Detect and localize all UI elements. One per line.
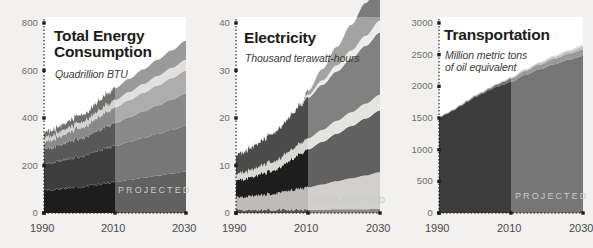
page-title: Total Energy Consumption (54, 28, 152, 61)
x-axis-tick-label: 1990 (30, 223, 54, 234)
chart-subtitle: Quadrillion BTU (55, 69, 128, 81)
y-axis-tick-label: 200 (22, 161, 38, 171)
y-axis-tick-label: 40 (219, 18, 230, 28)
y-axis-tick-label: 0 (33, 208, 38, 218)
x-axis-tick-label: 1990 (222, 223, 246, 234)
chart-panel-electricity: Electricity Thousand terawatt-hours PROJ… (196, 0, 392, 248)
y-axis-tick-label: 500 (417, 176, 433, 186)
y-axis-tick-label: 1000 (411, 145, 433, 155)
x-axis-tick-label: 2030 (366, 223, 390, 234)
chart-panel-transportation: Transportation Million metric tons of oi… (393, 0, 593, 248)
page-title: Electricity (244, 30, 316, 46)
projected-annotation: PROJECTED (515, 192, 588, 201)
chart-subtitle: Million metric tons of oil equivalent (445, 50, 527, 74)
y-axis-tick-label: 30 (219, 66, 230, 76)
y-axis-tick-label: 3000 (411, 18, 433, 28)
x-axis-tick-label: 2030 (172, 223, 196, 234)
figure-root: Total Energy Consumption Quadrillion BTU… (0, 0, 593, 248)
x-axis-tick-label: 2010 (294, 223, 318, 234)
y-axis-tick-label: 2500 (411, 50, 433, 60)
y-axis-tick-label: 600 (22, 66, 38, 76)
page-title: Transportation (444, 27, 550, 43)
y-axis-tick-label: 0 (225, 208, 230, 218)
x-axis-tick-label: 2010 (101, 223, 125, 234)
chart-subtitle: Thousand terawatt-hours (245, 53, 359, 65)
y-axis-tick-label: 400 (22, 113, 38, 123)
chart-panel-total-energy-consumption: Total Energy Consumption Quadrillion BTU… (0, 0, 195, 248)
y-axis-tick-label: 1500 (411, 113, 433, 123)
x-axis-tick-label: 2010 (497, 223, 521, 234)
x-axis-tick-label: 2030 (569, 223, 593, 234)
y-axis-tick-label: 800 (22, 18, 38, 28)
y-axis-tick-label: 10 (219, 161, 230, 171)
y-axis-tick-label: 2000 (411, 81, 433, 91)
projected-annotation: PROJECTED (118, 186, 191, 195)
y-axis-tick-label: 0 (428, 208, 433, 218)
x-axis-tick-label: 1990 (425, 223, 449, 234)
projected-annotation: PROJECTED (314, 196, 387, 205)
y-axis-tick-label: 20 (219, 113, 230, 123)
